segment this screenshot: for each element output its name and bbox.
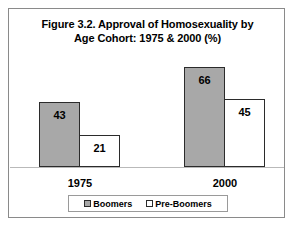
axis-baseline [10, 167, 285, 168]
category-label-1975: 1975 [40, 177, 120, 190]
bar-2000-preboomers[interactable]: 45 [224, 99, 265, 167]
chart-legend: Boomers Pre-Boomers [68, 195, 228, 212]
bar-value-label: 66 [198, 74, 210, 166]
legend-label: Pre-Boomers [155, 199, 212, 209]
plot-area: 43 21 66 45 1975 2000 [9, 9, 285, 218]
white-square-swatch-icon [146, 200, 153, 207]
legend-label: Boomers [93, 199, 132, 209]
bar-value-label: 45 [238, 106, 250, 166]
bar-1975-boomers[interactable]: 43 [39, 102, 80, 167]
bar-2000-boomers[interactable]: 66 [184, 67, 225, 167]
category-label-2000: 2000 [185, 177, 265, 190]
bar-value-label: 43 [53, 109, 65, 166]
figure-frame: Figure 3.2. Approval of Homosexuality by… [8, 8, 285, 218]
legend-entry-preboomers[interactable]: Pre-Boomers [146, 199, 212, 209]
bar-value-label: 21 [93, 142, 105, 166]
bar-1975-preboomers[interactable]: 21 [79, 135, 120, 167]
legend-entry-boomers[interactable]: Boomers [84, 199, 132, 209]
gray-square-swatch-icon [84, 200, 91, 207]
